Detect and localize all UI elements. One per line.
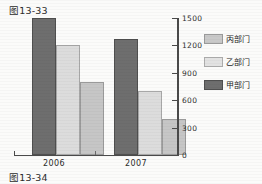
legend-item-yi: 乙部门 <box>204 56 250 67</box>
bar-2006-yi <box>56 45 80 155</box>
y-tick-label-600: 600 <box>182 97 197 104</box>
legend-swatch-yi-icon <box>204 57 223 67</box>
bar-chart: 1500 1200 900 600 300 0 2006 2007 丙部门 乙部… <box>0 16 262 164</box>
y-axis-line <box>177 18 179 156</box>
y-tick-300 <box>172 128 178 129</box>
plot-area <box>14 18 176 155</box>
x-label-2007: 2007 <box>125 159 147 168</box>
bar-group-2006 <box>32 18 104 155</box>
figure-caption-top: 图13-33 <box>9 3 48 17</box>
legend-item-bing: 丙部门 <box>204 33 250 44</box>
bar-2006-jia <box>32 18 56 155</box>
y-tick-900 <box>172 73 178 74</box>
y-tick-label-1500: 1500 <box>182 15 202 22</box>
y-tick-1500 <box>172 18 178 19</box>
bar-group-2007 <box>114 18 186 155</box>
legend-label-jia: 甲部门 <box>226 79 250 90</box>
legend-item-jia: 甲部门 <box>204 79 250 90</box>
y-tick-1200 <box>172 45 178 46</box>
x-label-2006: 2006 <box>43 159 65 168</box>
x-axis-line <box>14 155 178 156</box>
y-tick-label-300: 300 <box>182 124 197 131</box>
y-tick-600 <box>172 100 178 101</box>
legend-label-bing: 丙部门 <box>226 33 250 44</box>
x-axis-tick-middle <box>95 151 96 155</box>
x-axis-tick-left <box>14 151 15 156</box>
y-tick-label-900: 900 <box>182 69 197 76</box>
bar-2007-yi <box>138 91 162 155</box>
bar-2007-jia <box>114 39 138 155</box>
figure-page: 图13-33 1500 1200 900 <box>0 0 262 184</box>
legend-swatch-jia-icon <box>204 80 223 90</box>
legend-label-yi: 乙部门 <box>226 56 250 67</box>
figure-caption-bottom: 图13-34 <box>9 170 48 184</box>
legend-swatch-bing-icon <box>204 34 223 44</box>
bar-2006-bing <box>80 82 104 155</box>
y-tick-label-0: 0 <box>182 152 187 159</box>
y-tick-label-1200: 1200 <box>182 42 202 49</box>
